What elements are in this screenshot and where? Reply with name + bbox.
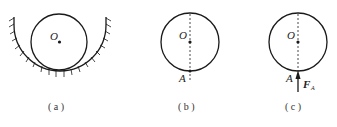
panel-b: O A ( b ): [161, 13, 219, 113]
contact-point-b: [189, 70, 192, 73]
center-label-a: O: [50, 30, 58, 42]
caption-a: ( a ): [48, 101, 64, 113]
caption-b: ( b ): [178, 101, 195, 113]
center-point-a: [58, 40, 61, 43]
caption-c: ( c ): [285, 101, 301, 113]
center-label-c: O: [287, 29, 295, 41]
contact-label-c: A: [285, 72, 293, 84]
panel-a: O ( a ): [9, 14, 111, 113]
support-surface: [14, 17, 106, 71]
contact-label-b: A: [178, 72, 186, 84]
force-subscript: A: [310, 85, 315, 91]
hatch-marks: [9, 18, 111, 77]
center-point-c: [296, 40, 299, 43]
center-point-b: [188, 40, 191, 43]
center-label-b: O: [179, 29, 187, 41]
force-label: F: [302, 78, 311, 90]
panel-c: O A F A ( c ): [269, 13, 327, 113]
